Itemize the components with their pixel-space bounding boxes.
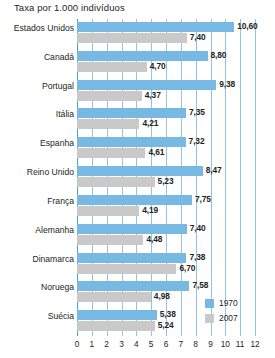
x-axis-tick-label: 11 (236, 339, 245, 349)
bar-value-1970: 10,60 (237, 21, 257, 31)
legend-label: 1970 (219, 298, 238, 308)
bar-2007 (77, 62, 147, 72)
chart-row: 8,804,70 (77, 51, 255, 77)
bar-2007 (77, 119, 139, 129)
bar-2007 (77, 177, 155, 187)
bar-1970 (77, 137, 186, 147)
category-label: Alemanha (35, 225, 74, 235)
gridline (255, 19, 256, 336)
x-axis-tick-label: 5 (149, 339, 154, 349)
bar-2007 (77, 235, 143, 245)
bar-value-2007: 4,19 (142, 205, 158, 215)
legend-item: 2007 (205, 312, 265, 324)
bar-value-2007: 4,61 (148, 147, 164, 157)
chart-row: 7,754,19 (77, 195, 255, 221)
bar-value-1970: 7,38 (189, 252, 205, 262)
bar-value-2007: 4,37 (145, 90, 161, 100)
x-axis-tick-label: 1 (90, 339, 95, 349)
bar-value-2007: 6,70 (179, 263, 195, 273)
bar-value-1970: 9,38 (219, 79, 235, 89)
legend-item: 1970 (205, 297, 265, 309)
bar-1970 (77, 22, 234, 32)
bar-value-2007: 4,70 (150, 61, 166, 71)
bar-value-2007: 4,21 (142, 118, 158, 128)
bar-value-2007: 5,24 (158, 320, 174, 330)
x-axis-tick-label: 2 (104, 339, 109, 349)
bar-value-1970: 7,58 (192, 280, 208, 290)
bar-value-1970: 7,32 (189, 136, 205, 146)
bar-2007 (77, 91, 142, 101)
category-label: Itália (56, 109, 74, 119)
category-label: Noruega (41, 282, 74, 292)
chart-legend: 19702007 (205, 297, 265, 327)
bar-2007 (77, 33, 187, 43)
chart-row: 7,324,61 (77, 137, 255, 163)
bar-1970 (77, 166, 203, 176)
bar-1970 (77, 281, 189, 291)
category-label: Suécia (48, 311, 74, 321)
bar-value-1970: 8,47 (206, 165, 222, 175)
legend-label: 2007 (219, 313, 238, 323)
category-label: Canadá (44, 52, 74, 62)
chart-row: 10,607,40 (77, 22, 255, 48)
chart-row: 9,384,37 (77, 80, 255, 106)
bar-2007 (77, 321, 155, 331)
x-axis-line (77, 336, 255, 337)
chart-row: 8,475,23 (77, 166, 255, 192)
bar-1970 (77, 80, 216, 90)
bar-1970 (77, 310, 157, 320)
bar-1970 (77, 51, 208, 61)
chart-row: 7,386,70 (77, 253, 255, 279)
x-axis: 0123456789101112 (77, 336, 255, 356)
x-axis-tick-label: 10 (221, 339, 230, 349)
category-label: França (47, 196, 74, 206)
bar-1970 (77, 224, 187, 234)
bar-1970 (77, 195, 192, 205)
bar-value-2007: 4,98 (154, 291, 170, 301)
legend-swatch-icon (205, 314, 214, 323)
legend-swatch-icon (205, 299, 214, 308)
bar-value-2007: 5,23 (158, 176, 174, 186)
chart-title: Taxa por 1.000 indivíduos (14, 2, 125, 13)
x-axis-tick-label: 3 (119, 339, 124, 349)
bar-1970 (77, 108, 186, 118)
x-axis-tick-label: 12 (250, 339, 259, 349)
x-axis-tick-label: 8 (193, 339, 198, 349)
bar-2007 (77, 148, 145, 158)
bar-2007 (77, 292, 151, 302)
bar-value-1970: 7,35 (189, 107, 205, 117)
bar-value-2007: 4,48 (146, 234, 162, 244)
category-label: Espanha (40, 138, 74, 148)
chart-row: 7,404,48 (77, 224, 255, 250)
bar-2007 (77, 264, 176, 274)
x-axis-tick-label: 9 (208, 339, 213, 349)
plot-area: 10,607,408,804,709,384,377,354,217,324,6… (77, 19, 255, 336)
bar-value-1970: 7,75 (195, 194, 211, 204)
category-axis: Estados UnidosCanadáPortugalItáliaEspanh… (0, 19, 74, 336)
bar-1970 (77, 253, 186, 263)
bar-value-1970: 7,40 (190, 223, 206, 233)
bar-2007 (77, 206, 139, 216)
x-axis-tick-label: 7 (179, 339, 184, 349)
bar-value-1970: 8,80 (211, 50, 227, 60)
chart-row: 7,354,21 (77, 108, 255, 134)
bar-value-1970: 5,38 (160, 309, 176, 319)
x-axis-tick-label: 0 (75, 339, 80, 349)
category-label: Estados Unidos (14, 23, 74, 33)
bar-value-2007: 7,40 (190, 32, 206, 42)
category-label: Portugal (42, 81, 74, 91)
x-axis-tick-label: 6 (164, 339, 169, 349)
x-axis-tick-label: 4 (134, 339, 139, 349)
chart-container: Taxa por 1.000 indivíduos Estados Unidos… (0, 0, 275, 358)
category-label: Reino Unido (27, 167, 74, 177)
category-label: Dinamarca (32, 254, 74, 264)
